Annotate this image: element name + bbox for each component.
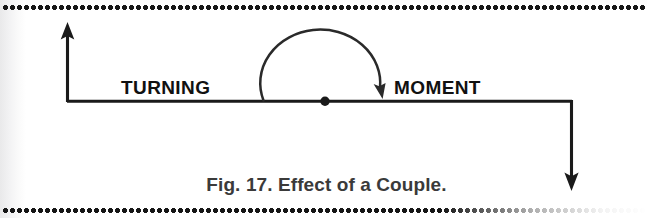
rotation-arc: [260, 30, 380, 101]
dotted-rule-bottom: [2, 208, 647, 213]
figure-caption-text: Fig. 17. Effect of a Couple.: [206, 174, 446, 195]
label-turning: TURNING: [121, 78, 210, 97]
figure-caption: Fig. 17. Effect of a Couple.: [0, 175, 647, 194]
pivot-point: [320, 97, 329, 106]
label-moment: MOMENT: [394, 78, 481, 97]
figure-page: TURNING MOMENT Fig. 17. Effect of a Coup…: [0, 0, 647, 218]
